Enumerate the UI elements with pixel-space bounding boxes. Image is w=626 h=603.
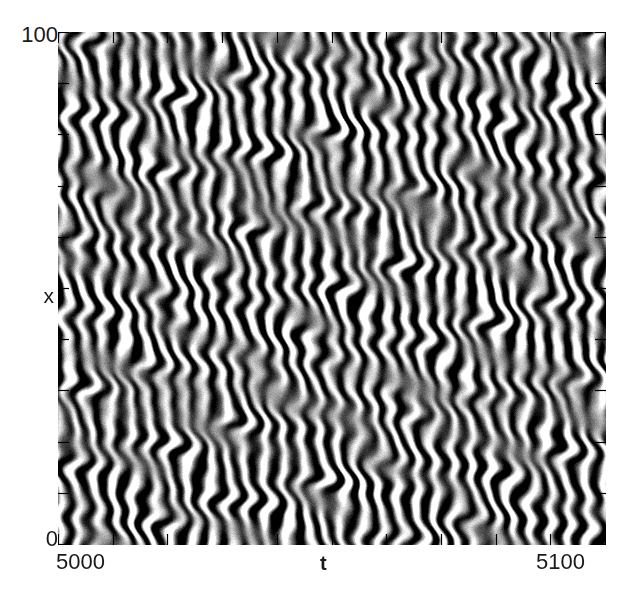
y-axis-title: x <box>44 285 55 306</box>
density-plot-area <box>58 32 606 545</box>
y-axis-min-label: 0 <box>46 528 58 550</box>
x-axis-title: t <box>320 553 327 573</box>
figure-canvas: 100 0 x 5000 5100 t <box>0 0 626 603</box>
x-axis-min-label: 5000 <box>56 551 105 573</box>
x-axis-max-label: 5100 <box>536 551 585 573</box>
y-axis-max-label: 100 <box>21 24 58 46</box>
spacetime-density-image <box>58 32 606 545</box>
